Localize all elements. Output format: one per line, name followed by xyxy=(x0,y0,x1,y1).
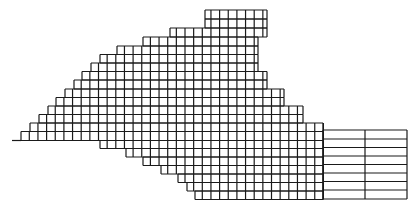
mesh-diagram xyxy=(0,0,415,209)
fine-mesh-region xyxy=(21,10,323,200)
coarse-mesh-region xyxy=(323,130,407,199)
